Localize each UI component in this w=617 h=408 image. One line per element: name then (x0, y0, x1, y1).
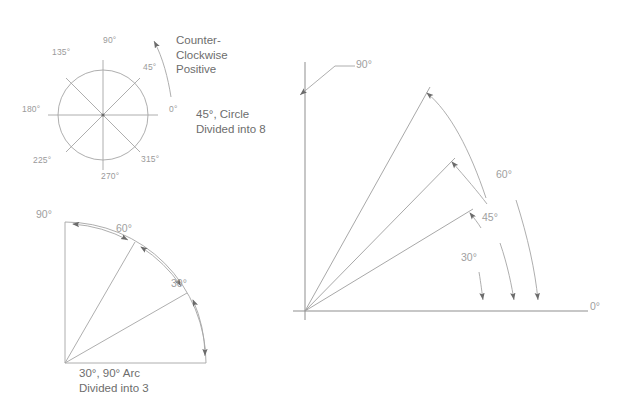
arc-caption: 30°, 90° Arc Divided into 3 (79, 366, 149, 396)
rays-label-90: 90° (356, 58, 372, 70)
ray-45 (305, 158, 455, 311)
rays-label-60: 60° (496, 168, 512, 180)
arc-label-60: 60° (116, 222, 132, 234)
arc-ray-60 (65, 242, 135, 363)
circle-label-225: 225° (33, 155, 51, 165)
circle-center-point (101, 113, 104, 116)
arc-label-90: 90° (36, 208, 52, 220)
ray-60 (305, 87, 430, 311)
arc-caption-line-1: 30°, 90° Arc (79, 366, 149, 381)
rays-label-45: 45° (482, 211, 498, 223)
circle-label-135: 135° (52, 47, 70, 57)
circle-figure-group (48, 41, 171, 170)
leader-90 (300, 66, 355, 95)
counter-clockwise-note-line-2: Clockwise (176, 48, 228, 63)
counter-clockwise-note-line-3: Positive (176, 62, 228, 77)
arc-label-30: 30° (171, 277, 187, 289)
dimension-curve-60-upper (427, 93, 486, 198)
counter-clockwise-note-line-1: Counter- (176, 33, 228, 48)
circle-caption-line-2: Divided into 8 (196, 122, 266, 137)
dimension-curve-45-lower (500, 243, 514, 300)
ray-30 (305, 209, 473, 311)
arc-ray-30 (65, 293, 187, 363)
rays-figure-group (293, 62, 588, 320)
circle-label-45: 45° (143, 62, 156, 72)
dimension-curve-30-lower (479, 272, 483, 300)
diagram-canvas: 0° 45° 90° 135° 180° 225° 270° 315° Coun… (0, 0, 617, 408)
rays-label-30: 30° (461, 251, 477, 263)
dimension-curve-30-upper (470, 213, 481, 228)
arc-outline (65, 222, 206, 363)
counter-clockwise-arrow (154, 41, 171, 97)
circle-label-270: 270° (101, 171, 119, 181)
circle-label-315: 315° (141, 154, 159, 164)
circle-caption-line-1: 45°, Circle (196, 107, 266, 122)
rays-label-0: 0° (590, 300, 600, 312)
arc-figure-group (65, 222, 206, 363)
circle-label-180: 180° (22, 104, 40, 114)
circle-label-0: 0° (169, 104, 178, 114)
counter-clockwise-note: Counter- Clockwise Positive (176, 33, 228, 77)
dimension-curve-45-upper (452, 162, 487, 204)
circle-caption: 45°, Circle Divided into 8 (196, 107, 266, 137)
circle-label-90: 90° (103, 35, 116, 45)
arc-caption-line-2: Divided into 3 (79, 381, 149, 396)
diagram-vector-layer (0, 0, 617, 408)
dimension-curve-60-lower (516, 200, 538, 300)
